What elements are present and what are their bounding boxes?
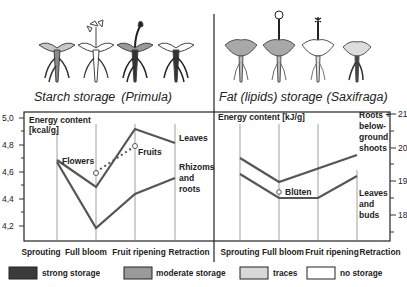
label-leaves-2: and xyxy=(359,199,374,209)
bluten-marker xyxy=(277,190,282,195)
left-panel-title: Starch storage(Primula) xyxy=(34,90,172,104)
left-axis-unit: [kcal/g] xyxy=(29,125,59,135)
right-y-tick-labels: 21 20 19 18 xyxy=(398,109,407,220)
left-y-axis xyxy=(19,118,24,226)
right-axis-label: Energy content [kJ/g] xyxy=(218,112,305,122)
left-axis-label: Energy content xyxy=(29,115,91,125)
legend-label-strong: strong storage xyxy=(42,268,100,278)
svg-text:18: 18 xyxy=(398,210,407,220)
svg-text:Fruit ripening: Fruit ripening xyxy=(112,247,165,257)
svg-text:4,4: 4,4 xyxy=(2,194,14,204)
label-flowers: Flowers xyxy=(62,156,94,166)
svg-text:4,8: 4,8 xyxy=(2,140,14,150)
legend-swatch-strong xyxy=(9,267,37,279)
fruits-marker xyxy=(133,144,138,149)
label-rhizoms-2: and xyxy=(179,173,194,183)
svg-text:Sprouting: Sprouting xyxy=(220,247,259,257)
svg-text:Sprouting: Sprouting xyxy=(21,247,60,257)
legend-swatch-none xyxy=(307,267,335,279)
svg-text:Retraction: Retraction xyxy=(359,247,400,257)
label-roots-1: Roots + xyxy=(359,110,390,120)
legend-swatch-moderate xyxy=(124,267,152,279)
label-roots-4: shoots xyxy=(359,143,387,153)
svg-text:4,2: 4,2 xyxy=(2,221,14,231)
legend-label-moderate: moderate storage xyxy=(156,268,226,278)
x-axis-labels: Sprouting Full bloom Fruit ripening Retr… xyxy=(21,247,400,257)
svg-text:20: 20 xyxy=(398,143,407,153)
flowers-marker xyxy=(94,171,99,176)
svg-text:19: 19 xyxy=(398,176,407,186)
label-leaves-1: Leaves xyxy=(359,188,388,198)
legend-label-traces: traces xyxy=(273,268,298,278)
left-y-tick-labels: 5,0 4,8 4,6 4,4 4,2 xyxy=(2,113,14,231)
legend: strong storage moderate storage traces n… xyxy=(9,267,383,279)
svg-text:5,0: 5,0 xyxy=(2,113,14,123)
legend-label-none: no storage xyxy=(340,268,383,278)
saxifraga-plants-illustration xyxy=(225,11,371,82)
primula-plants-illustration xyxy=(39,20,194,82)
svg-text:Full bloom: Full bloom xyxy=(262,247,304,257)
label-rhizoms-3: roots xyxy=(179,184,201,194)
svg-text:Full bloom: Full bloom xyxy=(65,247,107,257)
svg-text:Retraction: Retraction xyxy=(168,247,209,257)
label-roots-2: below- xyxy=(359,121,386,131)
svg-text:4,6: 4,6 xyxy=(2,167,14,177)
label-roots-3: ground xyxy=(359,132,388,142)
right-y-axis xyxy=(390,114,396,232)
label-leaves: Leaves xyxy=(179,133,208,143)
svg-text:21: 21 xyxy=(398,109,407,119)
label-leaves-3: buds xyxy=(359,210,380,220)
label-bluten: Blüten xyxy=(285,187,311,197)
plot-frame xyxy=(24,112,390,241)
svg-text:Fruit ripening: Fruit ripening xyxy=(305,247,358,257)
series-roots-saxifraga xyxy=(240,155,357,182)
label-fruits: Fruits xyxy=(138,147,162,157)
chart-figure: Starch storage(Primula) Fat (lipids) sto… xyxy=(0,0,407,287)
label-rhizoms-1: Rhizoms xyxy=(179,162,215,172)
right-panel-title: Fat (lipids) storage(Saxifraga) xyxy=(219,90,388,104)
legend-swatch-traces xyxy=(240,267,268,279)
